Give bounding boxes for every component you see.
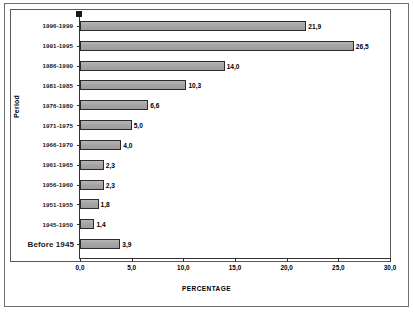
bar-chart-figure: Period 1996-199921,91991-199526,51986-19… <box>0 0 413 312</box>
x-axis-tick-label: 25,0 <box>332 264 344 271</box>
bar-row: 1981-198510,3 <box>80 76 390 96</box>
x-axis-tick <box>235 258 236 262</box>
x-axis-tick <box>132 258 133 262</box>
category-label: 1956-1960 <box>43 181 74 188</box>
bar: 21,9 <box>80 21 306 31</box>
bar-value-label: 10,3 <box>188 82 201 89</box>
bar: 10,3 <box>80 80 186 90</box>
category-label: 1981-1985 <box>43 82 74 89</box>
category-label: 1966-1970 <box>43 141 74 148</box>
bar: 14,0 <box>80 61 225 71</box>
bar-value-label: 2,3 <box>106 181 115 188</box>
bar-value-label: 3,9 <box>122 241 131 248</box>
category-label: 1971-1975 <box>43 122 74 129</box>
bar-value-label: 1,8 <box>101 201 110 208</box>
x-axis-tick-label: 20,0 <box>280 264 292 271</box>
x-axis-tick-label: 5,0 <box>127 264 136 271</box>
category-label: Before 1945 <box>28 240 74 249</box>
bar-value-label: 5,0 <box>134 122 143 129</box>
x-axis-tick <box>183 258 184 262</box>
bar-row: 1945-19501,4 <box>80 214 390 234</box>
bar: 2,3 <box>80 160 104 170</box>
plot-area: 1996-199921,91991-199526,51986-199014,01… <box>80 16 390 254</box>
bar-value-label: 2,3 <box>106 161 115 168</box>
x-axis-tick <box>390 258 391 262</box>
bar: 4,0 <box>80 140 121 150</box>
bar: 2,3 <box>80 180 104 190</box>
x-axis-tick <box>338 258 339 262</box>
x-axis-tick <box>287 258 288 262</box>
category-label: 1976-1980 <box>43 102 74 109</box>
x-axis-tick <box>80 258 81 262</box>
bar: 5,0 <box>80 120 132 130</box>
bar-row: 1956-19602,3 <box>80 175 390 195</box>
x-axis-tick-label: 15,0 <box>229 264 241 271</box>
category-label: 1945-1950 <box>43 221 74 228</box>
category-label: 1996-1999 <box>43 22 74 29</box>
bar-row: 1976-19806,6 <box>80 95 390 115</box>
category-label: 1986-1990 <box>43 62 74 69</box>
bar-value-label: 6,6 <box>150 102 159 109</box>
bar: 26,5 <box>80 41 354 51</box>
bar: 1,4 <box>80 219 94 229</box>
bar-row: 1971-19755,0 <box>80 115 390 135</box>
bar-value-label: 26,5 <box>356 42 369 49</box>
bar: 1,8 <box>80 199 99 209</box>
x-axis-tick-label: 0,0 <box>76 264 85 271</box>
category-label: 1991-1995 <box>43 42 74 49</box>
bar-row: Before 19453,9 <box>80 234 390 254</box>
bar: 3,9 <box>80 239 120 249</box>
x-axis-tick-label: 30,0 <box>384 264 396 271</box>
bar-row: 1996-199921,9 <box>80 16 390 36</box>
bar-value-label: 21,9 <box>308 22 321 29</box>
bar-row: 1951-19551,8 <box>80 195 390 215</box>
x-axis-tick-label: 10,0 <box>177 264 189 271</box>
category-label: 1961-1965 <box>43 161 74 168</box>
bar-row: 1986-199014,0 <box>80 56 390 76</box>
bar-value-label: 1,4 <box>96 221 105 228</box>
bar-row: 1961-19652,3 <box>80 155 390 175</box>
y-axis-title: Period <box>13 77 20 137</box>
bar: 6,6 <box>80 100 148 110</box>
bar-value-label: 4,0 <box>123 141 132 148</box>
bar-value-label: 14,0 <box>227 62 240 69</box>
bar-row: 1966-19704,0 <box>80 135 390 155</box>
x-axis-title: PERCENTAGE <box>0 285 413 292</box>
category-label: 1951-1955 <box>43 201 74 208</box>
bar-row: 1991-199526,5 <box>80 36 390 56</box>
